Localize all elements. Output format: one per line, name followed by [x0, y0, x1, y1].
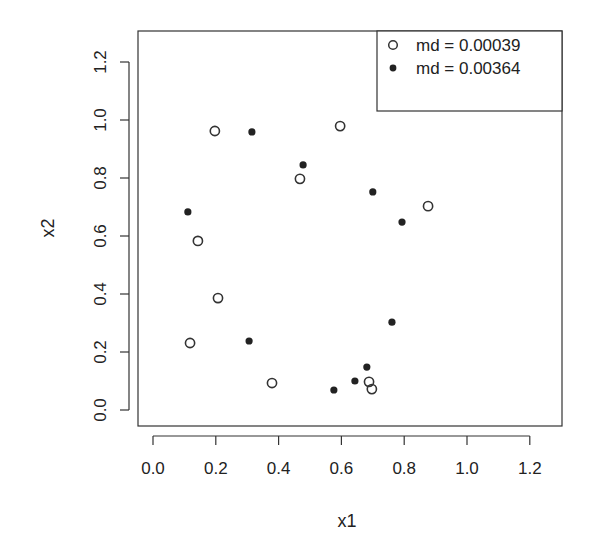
x-axis-label: x1	[337, 511, 356, 531]
scatter-chart: 0.00.20.40.60.81.01.2 0.00.20.40.60.81.0…	[0, 0, 590, 547]
legend-label: md = 0.00364	[416, 59, 520, 78]
y-axis: 0.00.20.40.60.81.01.2	[91, 50, 129, 422]
legend-filled-circle-icon	[390, 65, 397, 72]
filled-circle-point	[369, 188, 376, 195]
open-circle-point	[267, 378, 276, 387]
open-circle-point	[336, 121, 345, 130]
y-tick-label: 1.2	[91, 50, 110, 74]
filled-circle-point	[245, 337, 252, 344]
legend: md = 0.00039md = 0.00364	[377, 31, 562, 111]
y-tick-label: 0.8	[91, 166, 110, 190]
filled-circle-point	[330, 386, 337, 393]
open-circle-point	[210, 126, 219, 135]
filled-circle-point	[184, 208, 191, 215]
y-axis-label: x2	[38, 218, 58, 237]
x-tick-label: 0.8	[392, 459, 416, 478]
open-circle-point	[423, 202, 432, 211]
x-tick-label: 0.2	[204, 459, 228, 478]
series-2	[184, 128, 405, 393]
x-tick-label: 0.6	[330, 459, 354, 478]
x-tick-label: 1.2	[518, 459, 542, 478]
y-tick-label: 0.4	[91, 282, 110, 306]
filled-circle-point	[398, 218, 405, 225]
open-circle-point	[193, 236, 202, 245]
filled-circle-point	[299, 161, 306, 168]
x-tick-label: 0.4	[267, 459, 291, 478]
open-circle-point	[185, 338, 194, 347]
x-tick-label: 0.0	[141, 459, 165, 478]
legend-label: md = 0.00039	[416, 36, 520, 55]
x-tick-label: 1.0	[455, 459, 479, 478]
open-circle-point	[213, 293, 222, 302]
series-1	[185, 121, 432, 393]
y-tick-label: 0.0	[91, 398, 110, 422]
filled-circle-point	[388, 319, 395, 326]
y-tick-label: 1.0	[91, 108, 110, 132]
y-tick-label: 0.6	[91, 224, 110, 248]
filled-circle-point	[351, 377, 358, 384]
filled-circle-point	[248, 128, 255, 135]
data-points	[184, 121, 432, 393]
open-circle-point	[295, 174, 304, 183]
x-axis: 0.00.20.40.60.81.01.2	[141, 436, 541, 478]
y-tick-label: 0.2	[91, 340, 110, 364]
filled-circle-point	[363, 363, 370, 370]
